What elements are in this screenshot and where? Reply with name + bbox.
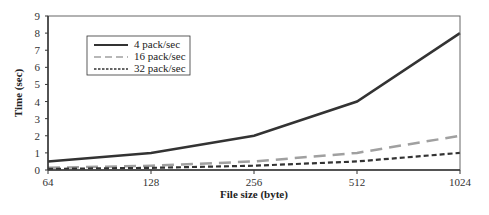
x-tick-label: 64	[43, 176, 55, 188]
x-tick-label: 128	[143, 176, 160, 188]
y-axis-ticks: 0123456789	[35, 10, 49, 176]
y-tick-label: 6	[35, 61, 41, 73]
y-tick-label: 1	[35, 147, 41, 159]
y-tick-label: 8	[35, 27, 41, 39]
y-tick-label: 4	[35, 96, 41, 108]
series-line-1	[48, 136, 460, 168]
legend-label-16: 16 pack/sec	[134, 50, 186, 62]
y-tick-label: 9	[35, 10, 41, 22]
y-tick-label: 0	[35, 164, 41, 176]
y-tick-label: 5	[35, 78, 41, 90]
x-tick-label: 256	[246, 176, 263, 188]
x-tick-label: 512	[349, 176, 366, 188]
legend: 4 pack/sec 16 pack/sec 32 pack/sec	[87, 36, 190, 75]
x-axis-title: File size (byte)	[220, 188, 288, 201]
line-chart: 0123456789 641282565121024 File size (by…	[0, 0, 489, 215]
y-axis-title: Time (sec)	[12, 68, 25, 117]
y-tick-label: 7	[35, 44, 41, 56]
legend-label-4: 4 pack/sec	[134, 38, 180, 50]
y-tick-label: 2	[35, 130, 41, 142]
x-axis-ticks: 641282565121024	[43, 170, 472, 188]
x-tick-label: 1024	[449, 176, 472, 188]
legend-label-32: 32 pack/sec	[134, 62, 186, 74]
y-tick-label: 3	[35, 113, 41, 125]
